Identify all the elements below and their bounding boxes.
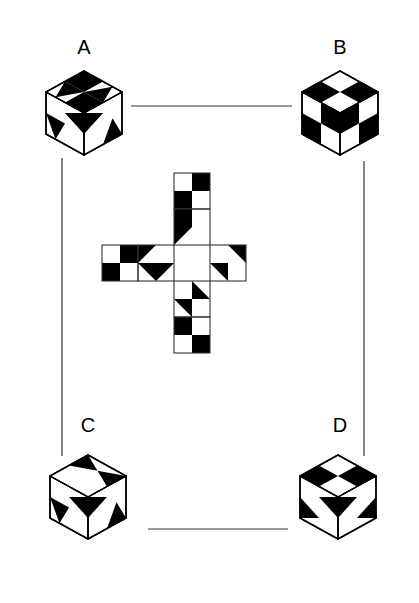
cube-label-b: B [333, 36, 346, 58]
figure-canvas: ABCD [0, 0, 419, 603]
cube-label-d: D [333, 414, 347, 436]
cube-label-c: C [81, 414, 95, 436]
cube-net-diagram: ABCD [0, 0, 419, 603]
cube-label-a: A [77, 36, 91, 58]
